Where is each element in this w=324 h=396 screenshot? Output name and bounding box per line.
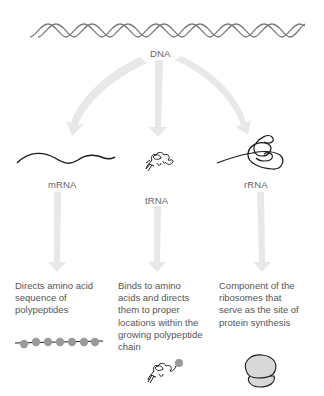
rrna-label: rRNA [244,179,268,190]
polypeptide-chain-icon [15,338,103,348]
arrow-to-rrna-icon [175,56,251,135]
trna-with-amino-acid-icon [148,359,183,383]
arrows-from-dna [66,56,251,137]
arrow-to-mrna-icon [66,57,147,136]
rrna-description: Component of the ribosomes that serve as… [219,280,324,329]
trna-icon [146,152,173,171]
dna-label: DNA [150,48,170,59]
rrna-icon [217,136,283,170]
trna-description: Binds to amino acids and directs them to… [118,280,218,353]
mrna-label: mRNA [48,179,76,190]
arrow-to-trna-icon [149,60,167,137]
trna-label: tRNA [145,195,168,206]
arrow-trna-down-icon [148,206,166,272]
dna-helix-icon [30,24,305,37]
mrna-strand-icon [17,153,115,163]
ribosome-icon [245,355,276,387]
arrow-rrna-down-icon [253,192,271,272]
mrna-description: Directs amino acid sequence of polypepti… [15,280,115,317]
arrow-mrna-down-icon [48,192,66,272]
